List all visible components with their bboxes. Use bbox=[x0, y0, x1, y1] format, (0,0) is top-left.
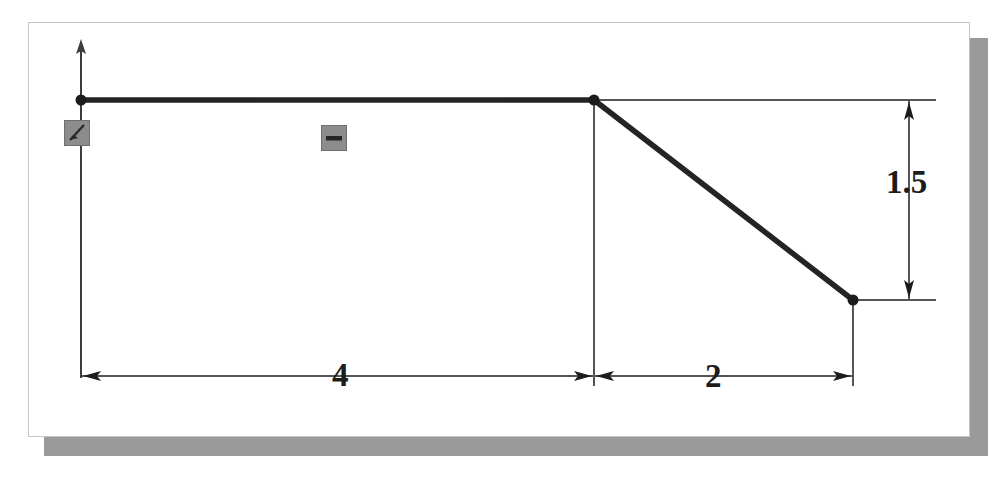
sketch-application-root: 4 2 1.5 bbox=[0, 0, 1004, 478]
fix-constraint-glyph[interactable] bbox=[64, 120, 90, 146]
anchor-fix-icon bbox=[65, 121, 89, 145]
vertical-axis-group bbox=[76, 39, 86, 378]
mid-vertex-point[interactable] bbox=[589, 95, 600, 106]
vertex-points-group[interactable] bbox=[76, 95, 859, 306]
dimension-arrowheads-group bbox=[83, 102, 914, 381]
dimension-label-4[interactable]: 4 bbox=[332, 359, 349, 392]
end-vertex-point[interactable] bbox=[848, 295, 859, 306]
sketch-geometry-canvas[interactable] bbox=[29, 23, 969, 436]
horizontal-bar-icon bbox=[322, 126, 346, 150]
dimension-label-1-5[interactable]: 1.5 bbox=[886, 166, 927, 199]
dimension-label-2[interactable]: 2 bbox=[705, 360, 722, 393]
horizontal-constraint-glyph[interactable] bbox=[321, 125, 347, 151]
origin-vertex-point[interactable] bbox=[76, 95, 87, 106]
sketch-drawing-panel[interactable]: 4 2 1.5 bbox=[28, 22, 970, 437]
inclined-segment[interactable] bbox=[594, 100, 853, 300]
sketch-profile-geometry[interactable] bbox=[81, 100, 853, 300]
